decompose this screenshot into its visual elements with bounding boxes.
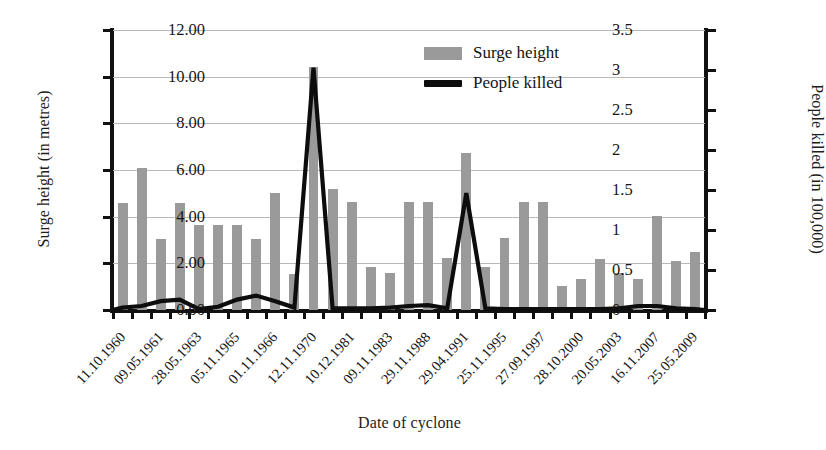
y-axis-right-tick-label: 1.5 (612, 180, 633, 200)
y-axis-left-tick-label: 2.00 (176, 253, 205, 273)
legend-line-swatch-icon (424, 80, 462, 87)
y-axis-right-tick-label: 2 (612, 140, 620, 160)
x-axis-tick (475, 311, 478, 319)
y-axis-right-tick (707, 69, 716, 72)
y-axis-right-tick (707, 149, 716, 152)
x-axis-tick (112, 311, 115, 319)
y-axis-right-tick (707, 189, 716, 192)
y-axis-left-tick-label: 8.00 (176, 113, 205, 133)
x-axis-tick (207, 311, 210, 319)
x-axis-tick (589, 311, 592, 319)
x-axis-tick (628, 311, 631, 319)
x-axis-tick (284, 311, 287, 319)
x-axis-tick (418, 311, 421, 319)
x-axis-tick (647, 311, 650, 319)
x-axis-tick (398, 311, 401, 319)
y-axis-left-tick (103, 216, 112, 219)
y-axis-right-tick-label: 3.5 (612, 20, 633, 40)
legend-bar-swatch-icon (424, 47, 462, 60)
x-axis-tick (341, 311, 344, 319)
x-axis-tick (169, 311, 172, 319)
y-axis-right-tick-label: 3 (612, 60, 620, 80)
y-axis-left-tick-label: 12.00 (168, 20, 205, 40)
chart-legend: Surge height People killed (424, 38, 562, 98)
y-axis-left-title: Surge height (in metres) (35, 39, 53, 299)
y-axis-right-tick-label: 0.5 (612, 260, 633, 280)
legend-item-surge-height: Surge height (424, 38, 562, 68)
y-axis-right-tick-label: 2.5 (612, 100, 633, 120)
x-axis-tick (227, 311, 230, 319)
legend-label-surge-height: Surge height (473, 43, 559, 63)
x-axis-tick (685, 311, 688, 319)
y-axis-left-tick-label: 0.00 (176, 300, 205, 320)
y-axis-left-tick-label: 4.00 (176, 207, 205, 227)
y-axis-left-tick (103, 29, 112, 32)
x-axis-tick (150, 311, 153, 319)
x-axis-tick (666, 311, 669, 319)
y-axis-left-tick (103, 122, 112, 125)
x-axis-title: Date of cyclone (0, 414, 819, 432)
x-axis-tick (513, 311, 516, 319)
x-axis-tick (265, 311, 268, 319)
x-axis-tick (437, 311, 440, 319)
y-axis-right-title: People killed (in 100,000) (808, 24, 826, 314)
x-axis-tick (322, 311, 325, 319)
legend-item-people-killed: People killed (424, 68, 562, 98)
y-axis-right-tick (707, 29, 716, 32)
y-axis-right-tick (707, 309, 716, 312)
y-axis-left-tick-label: 6.00 (176, 160, 205, 180)
y-axis-right-tick (707, 109, 716, 112)
y-axis-right-tick-label: 0 (612, 300, 620, 320)
x-axis-tick (303, 311, 306, 319)
y-axis-right-tick-label: 1 (612, 220, 620, 240)
y-axis-left-tick (103, 76, 112, 79)
y-axis-right-tick (707, 269, 716, 272)
x-axis-tick (704, 311, 707, 319)
x-axis-tick (360, 311, 363, 319)
x-axis-tick (456, 311, 459, 319)
x-axis-tick (379, 311, 382, 319)
x-axis-tick (494, 311, 497, 319)
x-axis-tick (532, 311, 535, 319)
x-axis-tick (551, 311, 554, 319)
y-axis-left-tick (103, 309, 112, 312)
x-axis-tick (131, 311, 134, 319)
y-axis-left-tick (103, 262, 112, 265)
x-axis-tick (570, 311, 573, 319)
y-axis-left-tick-label: 10.00 (168, 67, 205, 87)
y-axis-left-tick (103, 169, 112, 172)
legend-label-people-killed: People killed (473, 73, 562, 93)
y-axis-right-tick (707, 229, 716, 232)
x-axis-tick (246, 311, 249, 319)
